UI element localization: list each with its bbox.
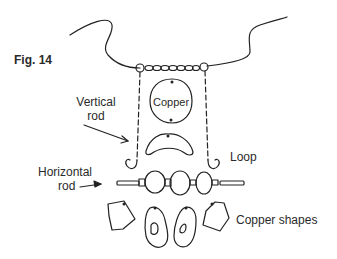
left-loop — [126, 159, 137, 168]
jewelry-diagram: Fig. 14 Copper Vertical rod Loop Horizon… — [0, 0, 337, 259]
copper-crescent — [146, 134, 193, 155]
copper-label: Copper — [153, 96, 189, 109]
chain — [145, 66, 200, 71]
right-wire — [207, 17, 287, 66]
left-vertical-rod — [137, 72, 140, 160]
horizontal-rod-label-1: Horizontal — [38, 166, 92, 179]
copper-shapes — [108, 201, 229, 247]
vertical-rod-label-1: Vertical — [74, 96, 118, 109]
vertical-rod-arrow — [84, 125, 128, 141]
horizontal-rod-label-2: rod — [58, 180, 75, 193]
right-loop — [208, 159, 219, 168]
right-ring — [200, 63, 208, 71]
loop-label: Loop — [230, 151, 257, 164]
left-wire — [70, 20, 140, 68]
vertical-rod-label-2: rod — [74, 110, 118, 123]
copper-shapes-label: Copper shapes — [236, 214, 317, 227]
horizontal-rod — [117, 171, 244, 195]
right-vertical-rod — [205, 71, 208, 160]
figure-number: Fig. 14 — [14, 54, 52, 67]
